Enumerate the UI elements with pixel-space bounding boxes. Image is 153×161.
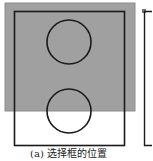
figure-canvas: (a) 选择框的位置	[0, 0, 152, 161]
selection-box	[5, 3, 135, 111]
diagram-svg	[0, 0, 152, 161]
side-frame	[145, 12, 153, 146]
figure-caption: (a) 选择框的位置	[0, 147, 137, 161]
